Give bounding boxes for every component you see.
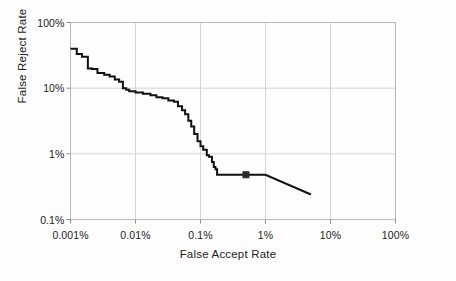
plot-frame [71, 23, 396, 220]
marker-layer [243, 172, 249, 178]
x-tick-label: 0.01% [120, 229, 150, 241]
x-axis-title: False Accept Rate [0, 248, 456, 260]
operating-point-marker [243, 172, 249, 178]
axis-lines [67, 23, 396, 224]
x-tick-label: 0.001% [52, 229, 88, 241]
x-tick-label: 10% [320, 229, 341, 241]
x-tick-label: 100% [382, 229, 409, 241]
data-line [71, 49, 311, 195]
y-tick-label: 1% [8, 148, 65, 160]
gridlines [71, 23, 396, 220]
det-curve-chart: 100%10%1%0.1% 0.001%0.01%0.1%1%10%100% F… [0, 0, 456, 281]
y-axis-title: False Reject Rate [16, 0, 28, 126]
data-series-layer [71, 49, 311, 195]
x-tick-label: 1% [258, 229, 273, 241]
y-tick-label: 0.1% [8, 214, 65, 226]
x-tick-label: 0.1% [188, 229, 212, 241]
